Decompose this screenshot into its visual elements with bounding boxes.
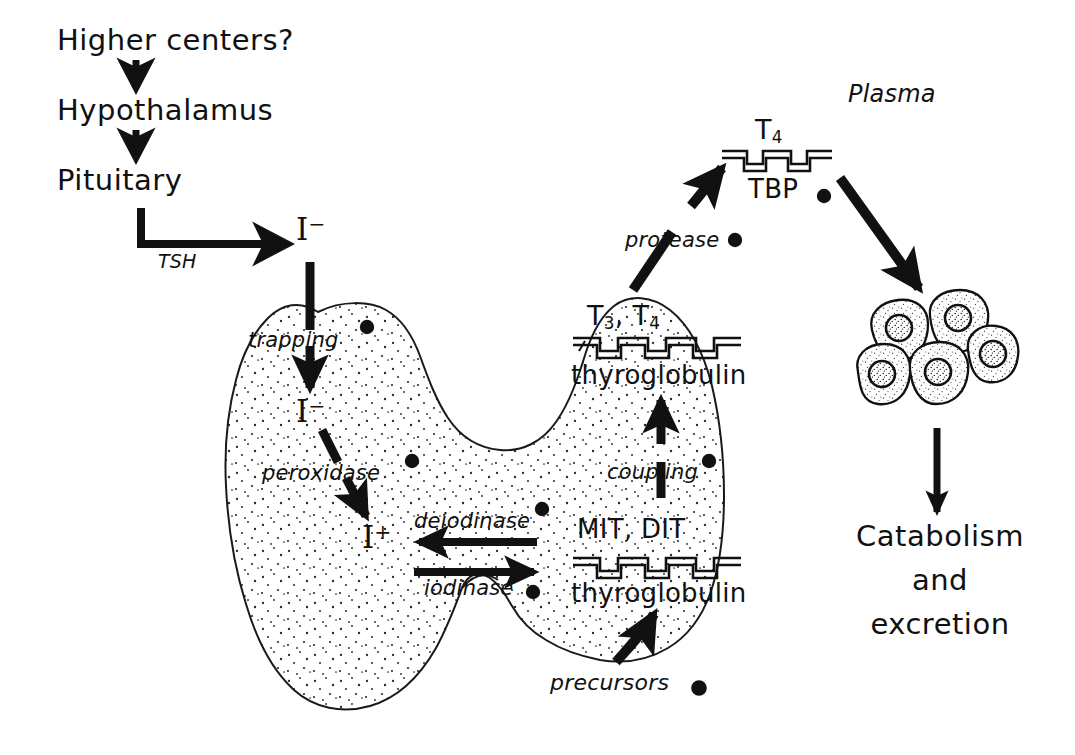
label-iodinase: iodinase bbox=[424, 578, 514, 599]
dot-precursors bbox=[691, 680, 707, 696]
label-iodine-active: I+ bbox=[362, 522, 391, 553]
thyroid-pathway-diagram: Higher centers? Hypothalamus Pituitary T… bbox=[0, 0, 1075, 755]
iodine-active-charge: + bbox=[374, 520, 391, 544]
arrow-protease-stem-upper bbox=[691, 168, 722, 206]
iodide-trapped-symbol: I bbox=[296, 393, 308, 429]
label-plasma-t4: T4 bbox=[755, 116, 783, 146]
label-coupling: coupling bbox=[607, 462, 698, 483]
dot-peroxidase bbox=[405, 454, 419, 468]
label-iodide-trapped: I− bbox=[296, 396, 325, 427]
label-protease: protease bbox=[625, 230, 719, 251]
label-catabolism-line1: Catabolism bbox=[855, 522, 1025, 551]
label-iodide-plasma: I− bbox=[296, 214, 325, 245]
dot-protease bbox=[728, 233, 742, 247]
dot-coupling bbox=[702, 454, 716, 468]
label-tbp: TBP bbox=[748, 176, 798, 202]
label-catabolism-line3: excretion bbox=[855, 610, 1025, 639]
arrow-tbp-to-cells bbox=[840, 178, 919, 288]
dot-trapping bbox=[360, 320, 374, 334]
label-thyroglobulin-lower: thyroglobulin bbox=[571, 580, 747, 606]
backbone-bar-tbp bbox=[722, 151, 832, 171]
target-cells bbox=[857, 290, 1018, 404]
axis-arrows bbox=[136, 60, 287, 244]
plasma-t4-symbol: T bbox=[755, 114, 772, 145]
dot-deiodinase bbox=[535, 502, 549, 516]
label-higher-centers: Higher centers? bbox=[57, 26, 294, 55]
t3-symbol: T bbox=[587, 300, 604, 331]
label-deiodinase: deiodinase bbox=[414, 511, 530, 532]
t3t4-comma: , bbox=[615, 300, 633, 331]
label-precursors: precursors bbox=[550, 672, 669, 694]
label-plasma: Plasma bbox=[848, 82, 936, 106]
label-thyroglobulin-upper: thyroglobulin bbox=[571, 362, 747, 388]
label-hypothalamus: Hypothalamus bbox=[57, 96, 273, 125]
label-tsh: TSH bbox=[158, 252, 197, 271]
label-peroxidase: peroxidase bbox=[262, 463, 380, 484]
t3-subscript: 3 bbox=[604, 313, 615, 333]
dot-iodinase bbox=[526, 585, 540, 599]
iodide-plasma-charge: − bbox=[308, 212, 325, 236]
iodide-trapped-charge: − bbox=[308, 394, 325, 418]
label-t3-t4: T3, T4 bbox=[587, 302, 660, 332]
label-catabolism-line2: and bbox=[855, 566, 1025, 595]
t4-symbol: T bbox=[633, 300, 650, 331]
label-pituitary: Pituitary bbox=[57, 166, 182, 195]
iodide-plasma-symbol: I bbox=[296, 211, 308, 247]
label-mit-dit: MIT, DIT bbox=[577, 516, 685, 542]
t4-subscript: 4 bbox=[649, 313, 660, 333]
dot-tbp bbox=[817, 189, 831, 203]
label-trapping: trapping bbox=[248, 330, 338, 351]
iodine-active-symbol: I bbox=[362, 519, 374, 555]
plasma-t4-subscript: 4 bbox=[772, 127, 783, 147]
arrow-tsh-to-iodide bbox=[141, 208, 287, 244]
